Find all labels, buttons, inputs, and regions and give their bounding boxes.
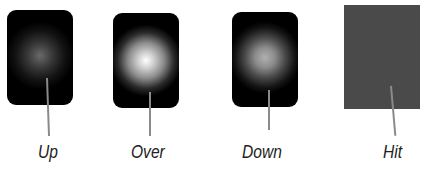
up-label: Up: [38, 141, 58, 163]
over-state-button: [113, 13, 179, 108]
over-leader-line: [149, 92, 151, 136]
down-leader-line: [268, 90, 270, 130]
hit-area: [344, 5, 420, 109]
down-label: Down: [242, 141, 282, 163]
hit-label: Hit: [383, 141, 402, 163]
over-label: Over: [131, 141, 165, 163]
down-state-button: [232, 12, 298, 107]
up-state-button: [7, 10, 73, 105]
